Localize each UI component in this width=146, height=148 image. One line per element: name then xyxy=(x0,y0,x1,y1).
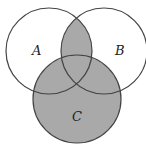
label-c: C xyxy=(72,109,82,124)
label-b: B xyxy=(114,43,125,58)
venn-diagram: A B C xyxy=(0,0,146,148)
label-a: A xyxy=(31,43,41,58)
